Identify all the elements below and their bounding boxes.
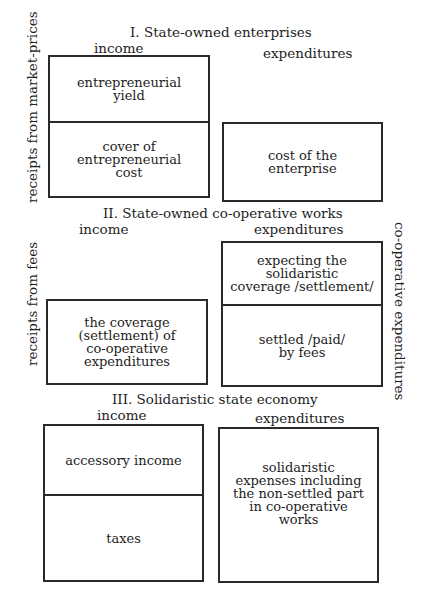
section-3-expenditure-box: solidaristic expenses including the non-… <box>218 427 379 583</box>
entrepreneurial-yield-cell: entrepreneurial yield <box>50 57 208 121</box>
cost-of-enterprise-cell: cost of the enterprise <box>224 124 381 200</box>
section-1-side-label: receipts from market-prices <box>24 11 40 203</box>
coverage-settlement-cell: the coverage (settlement) of co-operativ… <box>48 301 206 383</box>
section-3-income-box: accessory income taxes <box>43 424 204 582</box>
section-2-right-side-label: co-operative expenditures <box>392 222 408 401</box>
section-3-expenditures-label: expenditures <box>255 410 344 426</box>
solidaristic-expenses-cell: solidaristic expenses including the non-… <box>220 429 377 557</box>
section-2-expenditure-box: expecting the solidaristic coverage /set… <box>221 241 383 387</box>
section-1-expenditures-label: expenditures <box>263 45 352 61</box>
taxes-cell: taxes <box>45 494 202 580</box>
section-2-expenditures-label: expenditures <box>254 221 343 237</box>
section-1-expenditure-box: cost of the enterprise <box>222 122 383 202</box>
section-2-title: II. State-owned co-operative works <box>103 205 343 221</box>
expecting-solidaristic-coverage-cell: expecting the solidaristic coverage /set… <box>223 243 381 304</box>
section-3-title: III. Solidaristic state economy <box>112 391 318 407</box>
section-3-income-label: income <box>97 407 147 423</box>
cover-entrepreneurial-cost-cell: cover of entrepreneurial cost <box>50 121 208 196</box>
section-2-income-label: income <box>79 221 129 237</box>
section-1-income-box: entrepreneurial yield cover of entrepren… <box>48 55 210 198</box>
accessory-income-cell: accessory income <box>45 426 202 494</box>
section-1-title: I. State-owned enterprises <box>130 24 312 40</box>
settled-paid-by-fees-cell: settled /paid/ by fees <box>223 304 381 385</box>
section-2-side-label: receipts from fees <box>24 242 40 366</box>
section-2-income-box: the coverage (settlement) of co-operativ… <box>46 299 208 385</box>
section-1-income-label: income <box>94 40 144 56</box>
